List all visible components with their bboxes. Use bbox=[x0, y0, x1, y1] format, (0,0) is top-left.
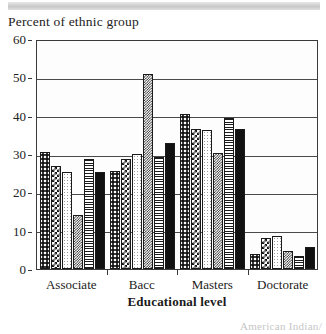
bar-associate-series-6 bbox=[95, 172, 105, 269]
bar-groups bbox=[37, 41, 317, 269]
bar-doctorate-series-1 bbox=[250, 254, 260, 269]
x-axis-title: Educational level bbox=[36, 294, 318, 310]
y-tick-label-60: 60 bbox=[13, 32, 26, 48]
x-tick-mark-2 bbox=[177, 270, 178, 275]
bar-masters-series-2 bbox=[191, 129, 201, 269]
bar-bacc-series-5 bbox=[154, 157, 164, 269]
bar-group-masters bbox=[177, 41, 247, 269]
x-axis-tick-marks bbox=[36, 270, 318, 276]
bar-masters-series-5 bbox=[224, 118, 234, 269]
y-tick-label-0: 0 bbox=[20, 262, 27, 278]
y-axis-tick-labels: 0102030405060 bbox=[0, 40, 32, 270]
y-tick-mark-20 bbox=[28, 193, 32, 194]
bar-associate-series-4 bbox=[73, 215, 83, 269]
bar-group-associate bbox=[37, 41, 107, 269]
bar-group-bacc bbox=[107, 41, 177, 269]
y-tick-label-10: 10 bbox=[13, 223, 26, 239]
bar-associate-series-1 bbox=[40, 152, 50, 269]
x-tick-mark-3 bbox=[248, 270, 249, 275]
x-tick-label-bacc: Bacc bbox=[107, 277, 178, 293]
y-tick-label-50: 50 bbox=[13, 70, 26, 86]
bar-bacc-series-6 bbox=[165, 143, 175, 270]
x-tick-mark-1 bbox=[107, 270, 108, 275]
bar-doctorate-series-5 bbox=[294, 256, 304, 269]
bar-doctorate-series-3 bbox=[272, 236, 282, 269]
bar-bacc-series-2 bbox=[121, 159, 131, 269]
bar-masters-series-6 bbox=[235, 129, 245, 269]
x-tick-label-masters: Masters bbox=[177, 277, 248, 293]
y-tick-mark-10 bbox=[28, 232, 32, 233]
plot-area bbox=[36, 40, 318, 270]
x-tick-label-doctorate: Doctorate bbox=[248, 277, 319, 293]
x-tick-label-associate: Associate bbox=[36, 277, 107, 293]
figure: Percent of ethnic group 0102030405060 As… bbox=[0, 0, 326, 334]
bar-group-doctorate bbox=[247, 41, 317, 269]
y-tick-label-40: 40 bbox=[13, 108, 26, 124]
bar-masters-series-3 bbox=[202, 130, 212, 269]
legend-footnote-text: American Indian/ bbox=[240, 320, 322, 332]
y-tick-label-20: 20 bbox=[13, 185, 26, 201]
bar-bacc-series-3 bbox=[132, 154, 142, 269]
bar-associate-series-2 bbox=[51, 166, 61, 270]
y-tick-mark-40 bbox=[28, 117, 32, 118]
x-axis-tick-labels: AssociateBaccMastersDoctorate bbox=[36, 277, 318, 293]
y-tick-mark-50 bbox=[28, 78, 32, 79]
bar-bacc-series-4 bbox=[143, 74, 153, 270]
bar-masters-series-4 bbox=[213, 153, 223, 269]
bar-associate-series-3 bbox=[62, 172, 72, 269]
y-tick-mark-0 bbox=[28, 270, 32, 271]
chart-title: Percent of ethnic group bbox=[8, 14, 139, 30]
decorative-gray-band bbox=[8, 2, 320, 10]
bar-masters-series-1 bbox=[180, 114, 190, 269]
bar-doctorate-series-4 bbox=[283, 251, 293, 269]
bar-doctorate-series-2 bbox=[261, 238, 271, 269]
y-tick-label-30: 30 bbox=[13, 147, 26, 163]
y-tick-mark-60 bbox=[28, 40, 32, 41]
bar-bacc-series-1 bbox=[110, 171, 120, 269]
bar-associate-series-5 bbox=[84, 159, 94, 269]
y-tick-mark-30 bbox=[28, 155, 32, 156]
bar-doctorate-series-6 bbox=[305, 247, 315, 269]
